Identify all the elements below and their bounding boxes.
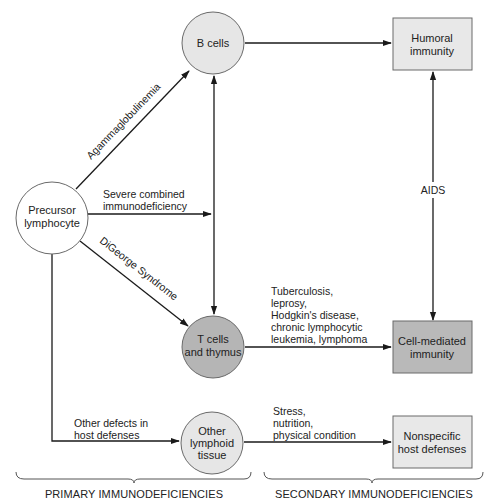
other-defects-label-line1: Other defects in [74,417,148,429]
precursor-label-line2: lymphocyte [24,217,80,229]
immunodeficiency-diagram: Precursor lymphocyte B cells T cells and… [0,0,490,503]
t-cells-label-line2: and thymus [185,346,242,358]
node-nonspecific-host-defenses: Nonspecific host defenses [393,416,472,468]
precursor-label-line1: Precursor [28,204,76,216]
nonspecific-secondary-label-line1: Stress, [273,405,306,417]
nonspecific-label-line2: host defenses [398,443,467,455]
other-lymphoid-label-line2: lymphoid [190,437,234,449]
t-secondary-label-line5: leukemia, lymphoma [271,333,367,345]
node-b-cells: B cells [182,12,244,74]
scid-label-line1: Severe combined [103,188,185,200]
primary-immunodeficiencies-label: PRIMARY IMMUNODEFICIENCIES [45,488,223,500]
t-secondary-label-line2: leprosy, [271,297,307,309]
node-precursor-lymphocyte: Precursor lymphocyte [16,182,88,254]
nonspecific-label-line1: Nonspecific [404,430,461,442]
nonspecific-secondary-label-line3: physical condition [273,429,356,441]
agammaglobulinemia-label: Agammaglobulinemia [84,80,163,161]
humoral-label-line2: immunity [410,45,455,57]
other-lymphoid-label-line3: tissue [198,449,227,461]
b-cells-label: B cells [197,37,230,49]
node-humoral-immunity: Humoral immunity [393,18,472,70]
humoral-label-line1: Humoral [411,32,453,44]
secondary-brace [264,472,483,483]
other-defects-label-line2: host defenses [74,429,139,441]
cell-mediated-label-line1: Cell-mediated [398,335,466,347]
digeorge-label: DiGeorge Syndrome [98,234,181,302]
cell-mediated-label-line2: immunity [410,348,455,360]
t-secondary-label-line1: Tuberculosis, [271,285,333,297]
node-other-lymphoid-tissue: Other lymphoid tissue [181,412,243,474]
other-lymphoid-label-line1: Other [198,425,226,437]
scid-label-line2: immunodeficiency [103,200,188,212]
aids-label: AIDS [421,184,446,196]
node-t-cells-thymus: T cells and thymus [182,316,244,378]
nonspecific-secondary-label-line2: nutrition, [273,417,313,429]
t-secondary-label-line4: chronic lymphocytic [271,321,363,333]
t-cells-label-line1: T cells [197,333,229,345]
t-secondary-label-line3: Hodgkin's disease, [271,309,359,321]
digeorge-arrow [80,241,188,326]
agammaglobulinemia-arrow [76,71,189,189]
secondary-immunodeficiencies-label: SECONDARY IMMUNODEFICIENCIES [275,488,473,500]
node-cell-mediated-immunity: Cell-mediated immunity [393,321,472,373]
